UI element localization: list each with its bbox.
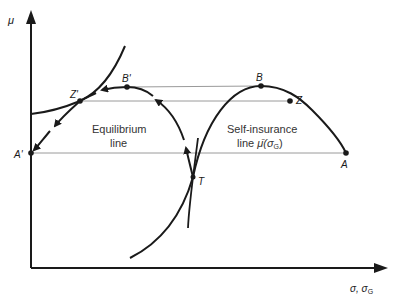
label-Z: Z (295, 95, 303, 106)
indifference-curve-lower (130, 177, 193, 258)
point-A (343, 150, 349, 156)
y-axis-label: μ (7, 14, 14, 26)
equilibrium-label-line2: line (110, 137, 127, 149)
point-B-prime (124, 84, 130, 90)
diagram-canvas: μ σ, σG A' A B B' Z Z' T Equilibrium lin… (0, 0, 398, 301)
point-Z (287, 98, 293, 104)
label-B-prime: B' (122, 73, 132, 84)
label-A-prime: A' (13, 149, 24, 160)
point-T (191, 175, 196, 180)
point-A-prime (28, 150, 34, 156)
steep-curve-T (188, 138, 198, 228)
x-axis-arrow-icon (374, 263, 388, 273)
self-insurance-label-line2: line μ̄(σG) (237, 137, 283, 150)
label-T: T (198, 176, 205, 187)
guide-B-line (127, 86, 261, 87)
y-axis-arrow-icon (26, 10, 36, 24)
label-A: A (340, 159, 348, 170)
point-Z-prime (77, 98, 83, 104)
equilibrium-label-line1: Equilibrium (92, 123, 146, 135)
self-insurance-label-line1: Self-insurance (227, 123, 297, 135)
label-Z-prime: Z' (69, 89, 79, 100)
axes (26, 10, 388, 273)
x-axis-label: σ, σG (350, 283, 373, 295)
label-B: B (256, 72, 263, 83)
point-B (258, 83, 264, 89)
